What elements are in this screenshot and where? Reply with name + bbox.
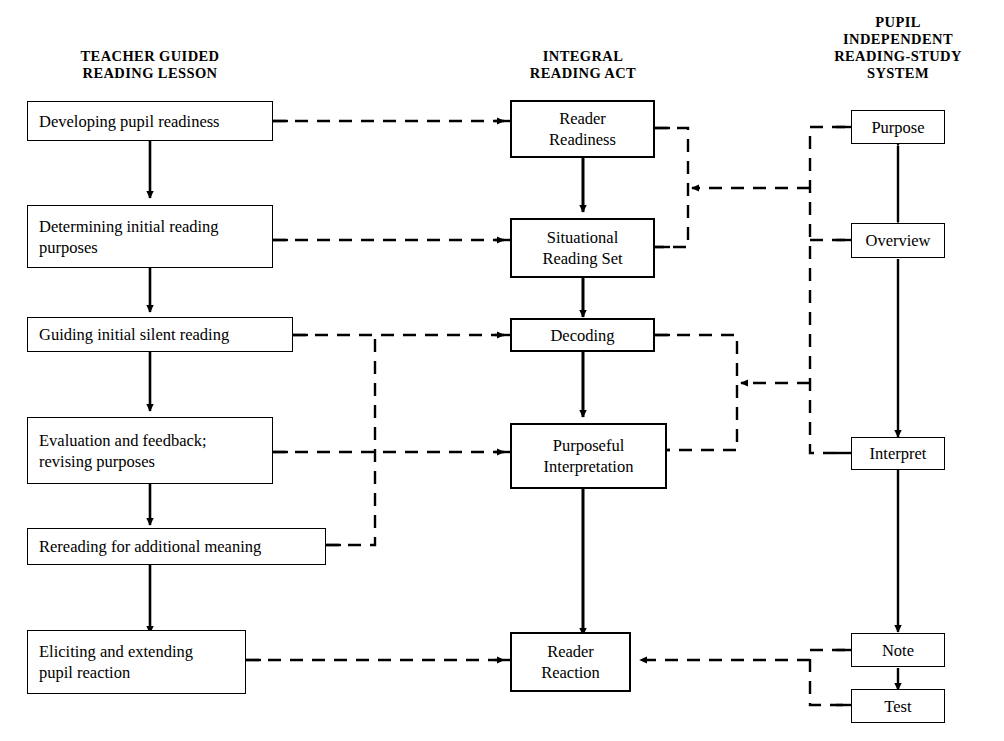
node-developing-pupil-readiness[interactable]: Developing pupil readiness [27, 101, 273, 141]
node-label: Situational Reading Set [542, 227, 622, 269]
bracket-decoding-purposeful [655, 335, 737, 450]
node-label: Note [882, 640, 914, 661]
node-reader-reaction[interactable]: Reader Reaction [510, 632, 631, 692]
node-label: Determining initial reading purposes [28, 216, 219, 258]
node-label: Rereading for additional meaning [28, 536, 261, 557]
node-reader-readiness[interactable]: Reader Readiness [510, 100, 655, 158]
node-label: Reader Readiness [549, 108, 616, 150]
column-header-teacher: TEACHER GUIDED READING LESSON [50, 48, 250, 82]
node-decoding[interactable]: Decoding [510, 318, 655, 352]
bracket-readiness-situational [655, 128, 688, 247]
node-interpret[interactable]: Interpret [851, 437, 945, 470]
note-test-bracket [810, 650, 845, 705]
connector-nubs [246, 121, 851, 705]
pupil-dashed-bus [810, 127, 845, 453]
node-label: Interpret [870, 443, 927, 464]
node-situational-reading-set[interactable]: Situational Reading Set [510, 218, 655, 278]
column-header-integral: INTEGRAL READING ACT [483, 48, 683, 82]
node-label: Developing pupil readiness [28, 111, 220, 132]
node-overview[interactable]: Overview [851, 223, 945, 258]
integral-right-brackets [655, 128, 737, 450]
node-label: Overview [865, 230, 930, 251]
link-rereading-to-decoding-line [326, 335, 375, 545]
node-eliciting-and-extending-pupil-reaction[interactable]: Eliciting and extending pupil reaction [27, 630, 246, 694]
node-purpose[interactable]: Purpose [851, 110, 945, 144]
bracket-note-test [810, 650, 845, 705]
node-label: Purpose [871, 117, 924, 138]
bus-purpose-to-interpret [810, 127, 845, 453]
diagram-canvas: TEACHER GUIDED READING LESSON INTEGRAL R… [0, 0, 1004, 741]
node-label: Guiding initial silent reading [28, 324, 229, 345]
node-guiding-initial-silent-reading[interactable]: Guiding initial silent reading [27, 317, 293, 352]
node-label: Eliciting and extending pupil reaction [28, 641, 193, 683]
node-determining-initial-reading-purposes[interactable]: Determining initial reading purposes [27, 205, 273, 268]
node-label: Purposeful Interpretation [544, 435, 634, 477]
node-label: Decoding [550, 325, 614, 346]
teacher-to-integral-links [246, 121, 504, 660]
node-rereading-for-additional-meaning[interactable]: Rereading for additional meaning [27, 528, 326, 565]
node-purposeful-interpretation[interactable]: Purposeful Interpretation [510, 423, 667, 489]
node-label: Reader Reaction [541, 641, 600, 683]
node-evaluation-and-feedback[interactable]: Evaluation and feedback; revising purpos… [27, 417, 273, 484]
node-label: Test [884, 696, 911, 717]
node-test[interactable]: Test [851, 689, 945, 723]
node-label: Evaluation and feedback; revising purpos… [28, 430, 207, 472]
node-note[interactable]: Note [851, 633, 945, 667]
column-header-pupil: PUPIL INDEPENDENT READING-STUDY SYSTEM [798, 14, 998, 82]
